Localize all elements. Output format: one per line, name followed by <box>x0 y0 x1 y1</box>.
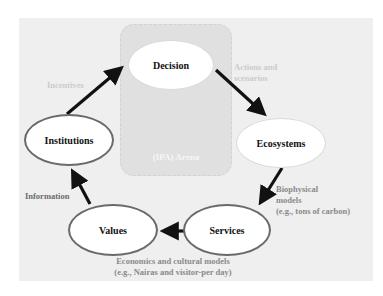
node-decision: Decision <box>128 40 214 90</box>
label-incentives: Incentives <box>47 80 84 91</box>
label-biophysical-models: Biophysical models (e.g., tons of carbon… <box>276 184 350 217</box>
node-ecosystems: Ecosystems <box>236 118 326 168</box>
node-services: Services <box>183 204 271 256</box>
label-actions-scenarios: Actions and scenarios <box>234 62 277 84</box>
node-ecosystems-label: Ecosystems <box>257 138 306 149</box>
label-economics-cultural-models: Economics and cultural models (e.g., Nai… <box>88 256 258 278</box>
arrow-institutions-to-decision <box>67 70 119 114</box>
node-institutions: Institutions <box>24 114 114 166</box>
arrow-values-to-institutions <box>74 174 90 204</box>
node-institutions-label: Institutions <box>45 135 94 146</box>
node-values-label: Values <box>99 225 127 236</box>
node-services-label: Services <box>210 225 245 236</box>
node-decision-label: Decision <box>153 60 189 71</box>
label-information: Information <box>25 191 69 202</box>
node-values: Values <box>68 204 158 256</box>
